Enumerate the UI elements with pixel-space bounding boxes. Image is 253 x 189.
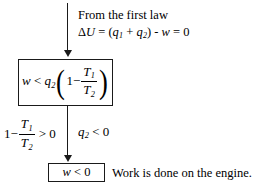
plus-operator: +	[123, 25, 136, 39]
right-condition-expression: q2 < 0	[78, 124, 109, 141]
first-law-title: From the first law	[78, 8, 189, 23]
fraction-denominator: T2	[19, 134, 35, 152]
fraction-denominator: T2	[81, 81, 97, 99]
temp-T2-subscript: 2	[91, 90, 95, 99]
heat-q1-symbol: q	[113, 25, 119, 39]
fraction-numerator: T1	[81, 65, 97, 82]
equals-zero: = 0	[170, 25, 190, 39]
less-than-operator: <	[31, 73, 45, 88]
flowchart-diagram: From the first law ΔU = (q1 + q2) - w = …	[0, 0, 253, 189]
arrow-bottom-head	[64, 155, 72, 162]
work-symbol: w	[162, 25, 170, 39]
arrow-bottom-line	[67, 106, 68, 156]
work-symbol: w	[22, 73, 31, 88]
equals-open-paren: = (	[95, 25, 112, 39]
greater-than-zero: > 0	[36, 126, 56, 141]
open-paren: (	[57, 68, 66, 95]
internal-energy-symbol: U	[86, 25, 95, 39]
arrow-top-head	[64, 50, 72, 57]
temp-T2-symbol: T	[21, 135, 28, 150]
heat-q2-symbol: q	[44, 73, 51, 88]
less-than-zero: < 0	[89, 124, 109, 139]
minus-operator: −	[11, 126, 18, 141]
first-law-equation: ΔU = (q1 + q2) - w = 0	[78, 26, 189, 40]
main-inequality-box: w < q2(1−T1T2)	[18, 59, 113, 106]
result-conclusion-text: Work is done on the engine.	[112, 166, 252, 181]
work-symbol: w	[63, 165, 71, 179]
temperature-ratio-fraction: T1T2	[19, 117, 35, 152]
fraction-numerator: T1	[19, 117, 35, 134]
left-condition-expression: 1−T1T2 > 0	[4, 118, 56, 153]
temp-T1-symbol: T	[83, 64, 90, 79]
less-than-zero: < 0	[71, 165, 91, 179]
temperature-ratio-fraction: T1T2	[81, 65, 97, 100]
heat-q2-subscript: 2	[51, 81, 55, 90]
temp-T1-subscript: 1	[91, 71, 95, 80]
heat-q2-symbol: q	[78, 124, 85, 139]
heat-q2-symbol: q	[136, 25, 142, 39]
close-paren: )	[99, 68, 108, 95]
minus-operator: −	[73, 73, 80, 88]
main-inequality-expression: w < q2(1−T1T2)	[22, 65, 109, 100]
first-law-caption: From the first law ΔU = (q1 + q2) - w = …	[78, 8, 189, 40]
close-paren-minus: ) -	[147, 25, 162, 39]
arrow-top-line	[67, 3, 68, 51]
result-expression: w < 0	[63, 166, 91, 179]
temp-T2-symbol: T	[83, 82, 90, 97]
temp-T1-subscript: 1	[28, 124, 32, 133]
temp-T2-subscript: 2	[28, 143, 32, 152]
delta-symbol: Δ	[78, 25, 86, 39]
result-box: w < 0	[48, 163, 105, 182]
temp-T1-symbol: T	[21, 116, 28, 131]
